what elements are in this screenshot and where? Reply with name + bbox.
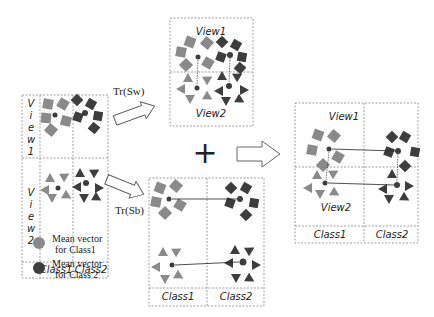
- svg-text:i: i: [30, 199, 33, 210]
- bottom-class2-label: Class2: [220, 291, 253, 302]
- svg-text:w: w: [27, 134, 36, 145]
- legend-class2-line2: for Class 2: [55, 269, 98, 280]
- arrow-to-within: [112, 98, 158, 129]
- within-class-panel: View1 View2: [170, 18, 253, 126]
- lda-multiview-diagram: V i e w 1 V i e w 2 Class1 Class2: [0, 0, 434, 317]
- svg-text:V: V: [28, 187, 36, 198]
- plus-operator: +: [192, 135, 217, 170]
- svg-text:i: i: [30, 110, 33, 121]
- top-view1-label: View1: [196, 26, 226, 37]
- view1-label: V i e w 1: [27, 98, 36, 157]
- svg-text:w: w: [27, 223, 36, 234]
- top-view2-label: View2: [196, 108, 226, 119]
- cluster-v1-c1: [41, 97, 73, 137]
- svg-text:V: V: [28, 98, 36, 109]
- view2-label: V i e w 2: [27, 187, 36, 246]
- right-view2-label: View2: [321, 202, 351, 213]
- combined-panel: View1 View2 Class1 Class2: [295, 103, 420, 243]
- tr-sb-label: Tr(Sb): [115, 204, 144, 217]
- legend-class1-line2: for Class1: [55, 244, 96, 255]
- svg-text:e: e: [28, 122, 34, 133]
- cluster-v2-c2: [72, 165, 104, 205]
- bottom-class1-label: Class1: [162, 291, 195, 302]
- arrow-to-between: [103, 171, 147, 203]
- class1-mean-swatch: [33, 237, 45, 249]
- cluster-v1-c2: [71, 94, 104, 135]
- cluster-v2-c1: [40, 169, 74, 203]
- right-class1-label: Class1: [314, 229, 347, 240]
- svg-text:1: 1: [28, 146, 34, 157]
- right-class2-label: Class2: [376, 229, 409, 240]
- class2-mean-swatch: [33, 262, 45, 274]
- svg-text:e: e: [28, 211, 34, 222]
- between-class-panel: Class1 Class2: [149, 178, 264, 306]
- legend-class2-line1: Mean vector: [52, 258, 103, 269]
- tr-sw-label: Tr(Sw): [113, 85, 145, 98]
- legend-class1-line1: Mean vector: [52, 233, 103, 244]
- right-view1-label: View1: [329, 111, 359, 122]
- arrow-to-combined: [237, 141, 280, 167]
